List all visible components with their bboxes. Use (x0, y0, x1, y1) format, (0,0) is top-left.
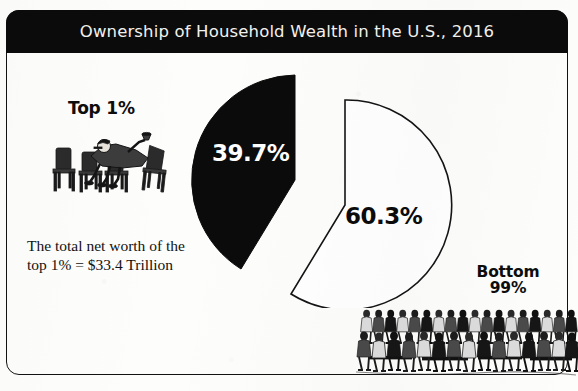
pie-slice-top-1-percent (192, 75, 295, 269)
pie-label-bottom-99-percent: 60.3% (345, 203, 422, 229)
bottom-ninety-nine-label: Bottom 99% (455, 264, 561, 296)
title-bar: Ownership of Household Wealth in the U.S… (6, 10, 568, 53)
top-one-percent-label: Top 1% (68, 98, 135, 118)
infographic-page: Ownership of Household Wealth in the U.S… (0, 0, 578, 391)
pie-label-top-1-percent: 39.7% (212, 140, 289, 166)
page-title: Ownership of Household Wealth in the U.S… (80, 22, 495, 41)
seated-crowd-icon (352, 300, 578, 378)
bottom-label-line2: 99% (455, 280, 561, 296)
bottom-label-line1: Bottom (455, 264, 561, 280)
pie-chart (170, 58, 470, 308)
